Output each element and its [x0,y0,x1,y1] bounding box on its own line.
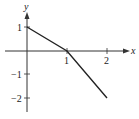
y-axis-arrow-icon [25,12,30,19]
xtick-1-label: 1 [64,55,69,66]
ytick-m2-label: −2 [11,93,22,104]
chart-canvas: y x 1 2 1 −1 −2 [0,0,139,119]
ytick-m1-label: −1 [11,69,22,80]
x-axis-label: x [130,45,136,56]
xtick-2-label: 2 [104,55,109,66]
y-axis-label: y [23,1,29,12]
ytick-1-label: 1 [17,22,22,33]
x-axis-arrow-icon [123,49,130,54]
